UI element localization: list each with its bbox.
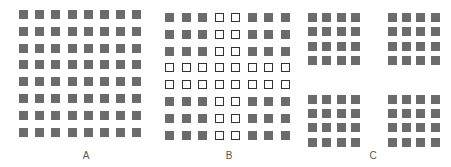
filled-square <box>388 27 397 36</box>
filled-square <box>337 13 346 22</box>
filled-square <box>322 109 331 118</box>
filled-square <box>388 13 397 22</box>
filled-square <box>388 123 397 132</box>
filled-square <box>402 123 411 132</box>
filled-square <box>351 42 360 51</box>
filled-square <box>416 138 425 147</box>
filled-square <box>322 56 331 65</box>
filled-square <box>351 109 360 118</box>
filled-square <box>388 109 397 118</box>
filled-square <box>402 109 411 118</box>
filled-square <box>337 95 346 104</box>
panel-a-label: A <box>83 150 90 161</box>
filled-square <box>388 56 397 65</box>
filled-square <box>431 13 440 22</box>
filled-square <box>416 13 425 22</box>
filled-square <box>351 123 360 132</box>
filled-square <box>416 56 425 65</box>
filled-square <box>308 42 317 51</box>
filled-square <box>322 95 331 104</box>
filled-square <box>351 95 360 104</box>
filled-square <box>431 109 440 118</box>
filled-square <box>322 138 331 147</box>
filled-square <box>308 27 317 36</box>
filled-square <box>351 27 360 36</box>
filled-square <box>416 109 425 118</box>
filled-square <box>416 27 425 36</box>
filled-square <box>431 95 440 104</box>
filled-square <box>308 109 317 118</box>
filled-square <box>431 27 440 36</box>
filled-square <box>402 138 411 147</box>
panel-b-label: B <box>226 150 233 161</box>
filled-square <box>431 123 440 132</box>
filled-square <box>402 27 411 36</box>
filled-square <box>402 95 411 104</box>
filled-square <box>351 56 360 65</box>
filled-square <box>388 95 397 104</box>
filled-square <box>308 95 317 104</box>
filled-square <box>431 138 440 147</box>
filled-square <box>322 13 331 22</box>
filled-square <box>416 123 425 132</box>
filled-square <box>322 27 331 36</box>
filled-square <box>402 13 411 22</box>
filled-square <box>402 42 411 51</box>
filled-square <box>322 42 331 51</box>
filled-square <box>337 42 346 51</box>
filled-square <box>431 56 440 65</box>
panel-c <box>0 0 451 167</box>
filled-square <box>351 13 360 22</box>
filled-square <box>308 56 317 65</box>
filled-square <box>337 109 346 118</box>
filled-square <box>308 138 317 147</box>
filled-square <box>308 13 317 22</box>
filled-square <box>388 42 397 51</box>
filled-square <box>337 27 346 36</box>
filled-square <box>431 42 440 51</box>
filled-square <box>337 138 346 147</box>
filled-square <box>322 123 331 132</box>
filled-square <box>388 138 397 147</box>
filled-square <box>402 56 411 65</box>
filled-square <box>337 56 346 65</box>
filled-square <box>416 42 425 51</box>
panel-c-label: C <box>369 150 376 161</box>
filled-square <box>351 138 360 147</box>
filled-square <box>337 123 346 132</box>
filled-square <box>416 95 425 104</box>
filled-square <box>308 123 317 132</box>
